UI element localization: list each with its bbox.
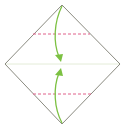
origami-diagram (0, 0, 128, 131)
bottom-fold-arrow-icon (55, 73, 62, 123)
fold-diagram-canvas (0, 0, 128, 131)
top-fold-arrow-icon (55, 6, 62, 57)
bottom-arrowhead-icon (55, 68, 63, 76)
top-arrowhead-icon (55, 54, 63, 62)
